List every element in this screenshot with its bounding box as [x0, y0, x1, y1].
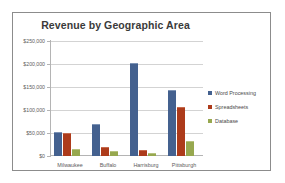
legend-item[interactable]: Database — [208, 114, 272, 128]
y-axis-tick-label: $200,000 — [23, 61, 45, 67]
y-axis-tick-label: $0 — [39, 153, 45, 159]
legend-label: Database — [215, 118, 238, 124]
bar[interactable] — [92, 124, 100, 156]
bar-group: Buffalo — [89, 41, 127, 156]
y-tick-mark — [47, 156, 51, 157]
bar-group: Milwaukee — [51, 41, 89, 156]
chart-legend: Word ProcessingSpreadsheetsDatabase — [208, 86, 272, 128]
legend-label: Spreadsheets — [215, 104, 248, 110]
y-axis-tick-label: $150,000 — [23, 84, 45, 90]
bar[interactable] — [54, 132, 62, 156]
bar[interactable] — [186, 141, 194, 156]
legend-swatch-icon — [208, 119, 212, 123]
plot-area: $0$50,000$100,000$150,000$200,000$250,00… — [51, 41, 203, 156]
legend-item[interactable]: Word Processing — [208, 86, 272, 100]
legend-swatch-icon — [208, 105, 212, 109]
bar-group: Harrisburg — [127, 41, 165, 156]
bar[interactable] — [168, 90, 176, 156]
bar[interactable] — [130, 63, 138, 156]
legend-swatch-icon — [208, 91, 212, 95]
x-axis-tick-label: Pittsburgh — [162, 162, 206, 168]
bar[interactable] — [110, 151, 118, 156]
bar[interactable] — [72, 149, 80, 156]
legend-item[interactable]: Spreadsheets — [208, 100, 272, 114]
y-axis-tick-label: $100,000 — [23, 107, 45, 113]
bar[interactable] — [63, 133, 71, 156]
legend-label: Word Processing — [215, 90, 256, 96]
chart-title: Revenue by Geographic Area — [13, 19, 218, 31]
bar[interactable] — [177, 107, 185, 156]
bar-group: Pittsburgh — [165, 41, 203, 156]
y-axis-tick-label: $250,000 — [23, 38, 45, 44]
y-axis-tick-label: $50,000 — [26, 130, 45, 136]
chart-frame: Revenue by Geographic Area $0$50,000$100… — [12, 12, 271, 171]
bar[interactable] — [148, 153, 156, 156]
bar[interactable] — [139, 150, 147, 156]
bar[interactable] — [101, 147, 109, 156]
